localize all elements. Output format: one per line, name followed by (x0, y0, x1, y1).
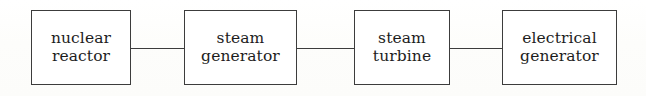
node-steam-generator-line-1: steam (217, 30, 265, 47)
diagram-canvas: nuclear reactor steam generator steam tu… (0, 0, 646, 96)
node-electrical-generator: electrical generator (502, 10, 617, 85)
connector-reactor-to-steam-generator (131, 48, 184, 49)
node-electrical-generator-line-1: electrical (522, 30, 596, 47)
node-steam-turbine: steam turbine (354, 10, 450, 85)
node-nuclear-reactor-line-2: reactor (52, 48, 110, 65)
connector-steam-turbine-to-electrical-generator (450, 48, 502, 49)
node-nuclear-reactor: nuclear reactor (31, 10, 131, 85)
node-steam-turbine-line-2: turbine (373, 48, 431, 65)
node-steam-generator: steam generator (184, 10, 297, 85)
node-electrical-generator-line-2: generator (520, 48, 599, 65)
node-nuclear-reactor-line-1: nuclear (51, 30, 111, 47)
node-steam-turbine-line-1: steam (378, 30, 426, 47)
node-steam-generator-line-2: generator (201, 48, 280, 65)
connector-steam-generator-to-steam-turbine (297, 48, 354, 49)
